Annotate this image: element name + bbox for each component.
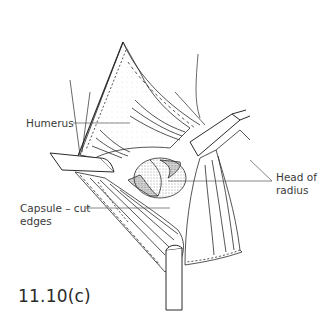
upper-tissue-flap xyxy=(78,42,200,158)
humerus-label: Humerus xyxy=(26,117,74,129)
capsule-label-line1: Capsule – cut xyxy=(20,202,90,214)
figure-number: 11.10(c) xyxy=(18,286,91,306)
head-of-radius xyxy=(128,158,186,198)
surgical-illustration xyxy=(0,0,332,320)
elbow-exposure-drawing xyxy=(0,0,332,320)
retractor-left xyxy=(50,153,114,172)
head-of-radius-label-line2: radius xyxy=(276,184,308,196)
retractor-bottom xyxy=(166,245,182,310)
retractor-right xyxy=(190,110,250,156)
head-of-radius-label-line1: Head of xyxy=(276,171,317,183)
capsule-label-line2: edges xyxy=(20,215,52,227)
